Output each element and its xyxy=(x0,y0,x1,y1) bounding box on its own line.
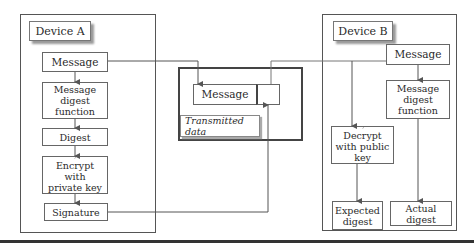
bottom-separator xyxy=(0,240,474,243)
connector-lines xyxy=(0,0,474,248)
arrow-message-to-transmitted xyxy=(108,61,198,84)
arrow-signature-to-transmitted xyxy=(108,105,268,212)
line-transmitted-to-device-b xyxy=(271,61,386,84)
